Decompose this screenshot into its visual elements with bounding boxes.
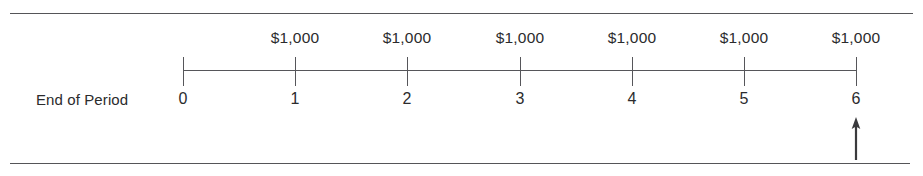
cash-flow-label-2: $1,000 bbox=[347, 29, 467, 47]
period-label-6: 6 bbox=[826, 89, 886, 108]
period-label-1: 1 bbox=[265, 89, 325, 108]
tick-mark-3 bbox=[520, 57, 521, 86]
period-label-2: 2 bbox=[377, 89, 437, 108]
period-label-5: 5 bbox=[714, 89, 774, 108]
cash-flow-label-4: $1,000 bbox=[572, 29, 692, 47]
axis-caption: End of Period bbox=[36, 90, 128, 109]
period-label-4: 4 bbox=[602, 89, 662, 108]
timeline-diagram: $1,000 $1,000 $1,000 $1,000 $1,000 $1,00… bbox=[0, 0, 923, 176]
cash-flow-label-6: $1,000 bbox=[796, 29, 916, 47]
cash-flow-label-1: $1,000 bbox=[235, 29, 355, 47]
cash-flow-label-3: $1,000 bbox=[460, 29, 580, 47]
top-divider-rule bbox=[10, 13, 913, 14]
tick-mark-6 bbox=[856, 57, 857, 86]
tick-mark-0 bbox=[183, 57, 184, 86]
tick-mark-5 bbox=[744, 57, 745, 86]
cash-flow-label-5: $1,000 bbox=[684, 29, 804, 47]
up-arrow-icon bbox=[849, 117, 863, 160]
tick-mark-2 bbox=[407, 57, 408, 86]
bottom-divider-rule bbox=[10, 163, 910, 164]
period-label-3: 3 bbox=[490, 89, 550, 108]
period-label-0: 0 bbox=[153, 89, 213, 108]
tick-mark-1 bbox=[295, 57, 296, 86]
tick-mark-4 bbox=[632, 57, 633, 86]
